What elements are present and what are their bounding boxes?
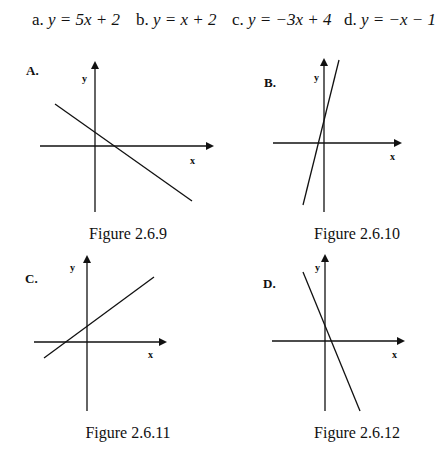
caption-d: Figure 2.6.12 xyxy=(314,424,400,442)
x-axis-label-d: x xyxy=(392,349,397,360)
caption-b: Figure 2.6.10 xyxy=(314,225,400,243)
graph-line xyxy=(303,60,339,205)
y-axis-label-d: y xyxy=(315,262,320,273)
panel-label-c: C. xyxy=(25,271,38,287)
y-axis-label-b: y xyxy=(314,72,319,83)
y-axis-label-c: y xyxy=(70,262,75,273)
x-axis-label-a: x xyxy=(190,155,195,166)
graph-line xyxy=(44,277,154,358)
graph-c xyxy=(34,257,165,411)
panel-label-d: D. xyxy=(263,276,276,292)
panel-label-b: B. xyxy=(264,75,276,91)
caption-c: Figure 2.6.11 xyxy=(85,424,170,442)
y-axis-label-a: y xyxy=(82,73,87,84)
graph-b xyxy=(273,60,400,212)
x-axis-label-b: x xyxy=(390,151,395,162)
panel-label-a: A. xyxy=(26,63,39,79)
graph-line xyxy=(55,104,192,201)
caption-a: Figure 2.6.9 xyxy=(89,225,167,243)
x-axis-label-c: x xyxy=(148,349,153,360)
graph-d xyxy=(272,256,403,411)
graph-a xyxy=(40,63,212,212)
